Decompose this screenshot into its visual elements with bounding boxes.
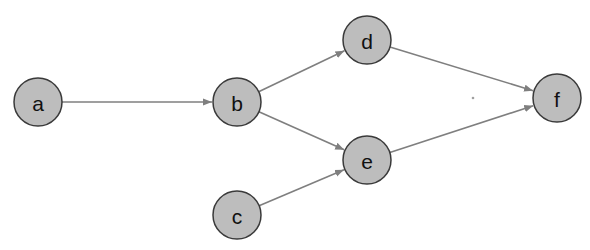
node-label: d bbox=[361, 30, 373, 53]
edge-d-to-f bbox=[390, 47, 533, 91]
graph-canvas: abcdef bbox=[0, 0, 590, 250]
stray-dot bbox=[472, 97, 475, 100]
node-f: f bbox=[533, 74, 581, 122]
node-d: d bbox=[343, 16, 391, 64]
node-c: c bbox=[213, 191, 261, 239]
node-label: b bbox=[231, 92, 243, 115]
node-label: e bbox=[361, 150, 373, 173]
node-a: a bbox=[14, 78, 62, 126]
node-label: a bbox=[32, 92, 44, 115]
edge-c-to-e bbox=[259, 170, 344, 206]
edges-layer bbox=[62, 47, 533, 206]
edge-b-to-d bbox=[259, 51, 345, 92]
edge-e-to-f bbox=[390, 106, 533, 153]
node-label: c bbox=[232, 205, 243, 228]
node-label: f bbox=[554, 88, 560, 111]
edge-b-to-e bbox=[259, 112, 344, 150]
node-e: e bbox=[343, 136, 391, 184]
node-b: b bbox=[213, 78, 261, 126]
nodes-layer: abcdef bbox=[14, 16, 581, 239]
